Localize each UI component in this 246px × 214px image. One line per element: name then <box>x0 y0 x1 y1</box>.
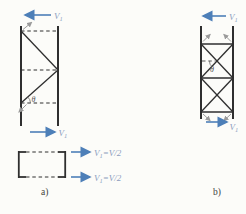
angle-label-b: θ <box>210 65 214 74</box>
shear-label-top-b: V1 <box>229 12 238 23</box>
reaction-label-bottom-a: V1=V/2 <box>94 173 122 184</box>
truss-shear-figure: θ V1 V1 V1=V/2 V1=V/2 a) <box>0 0 246 214</box>
reaction-label-top-a: V1=V/2 <box>94 148 122 159</box>
diagonal-force-arrow-top-a <box>23 23 32 30</box>
frame-a <box>21 26 58 126</box>
figure-canvas: θ V1 V1 V1=V/2 V1=V/2 a) <box>0 0 246 214</box>
diagonal-force-arrow-tl-b <box>203 35 210 42</box>
diagram-b: θ V1 V1 b) <box>200 12 238 199</box>
caption-a: a) <box>41 187 48 198</box>
shear-label-top-a: V1 <box>54 11 63 22</box>
diagonal-brace-upper-a <box>21 31 58 70</box>
diagram-a: θ V1 V1 V1=V/2 V1=V/2 a) <box>18 11 122 199</box>
diagonal-force-arrow-br-b <box>224 114 231 121</box>
diagonal-force-arrow-bl-b <box>203 114 210 121</box>
diagonal-brace-lower-a <box>21 70 58 103</box>
shear-label-bottom-b: V1 <box>230 122 239 133</box>
caption-b: b) <box>213 187 221 198</box>
base-panel-a <box>18 151 66 178</box>
angle-label-a: θ <box>32 95 36 104</box>
angle-arc-a <box>28 97 31 103</box>
shear-label-bottom-a: V1 <box>59 128 68 139</box>
diagonal-force-arrow-tr-b <box>224 35 231 42</box>
